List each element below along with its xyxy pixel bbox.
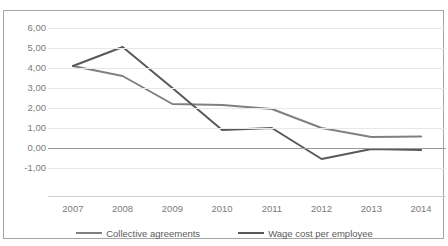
x-axis-tick-label: 2007 [62,203,83,214]
legend-label-wage-cost-per-employee: Wage cost per employee [268,228,373,239]
gridline [48,168,446,169]
gridline [48,128,446,129]
y-axis-tick-label: 0,00 [28,143,47,153]
series-line-collective-agreements [73,66,421,137]
x-axis-labels: 20072008200920102011201220132014 [48,203,446,219]
x-axis-tick-label: 2012 [311,203,332,214]
gridline [48,108,446,109]
y-axis-tick-label: 3,00 [28,83,47,93]
y-axis-tick-label: 4,00 [28,63,47,73]
x-axis-tick-label: 2013 [361,203,382,214]
y-axis-tick-label: 2,00 [28,103,47,113]
legend-item-collective-agreements[interactable]: Collective agreements [76,228,200,239]
y-axis-tick-label: 5,00 [28,43,47,53]
gridline [48,88,446,89]
y-axis-tick-label: 1,00 [28,123,47,133]
x-axis-tick-label: 2009 [162,203,183,214]
x-axis-tick-label: 2008 [112,203,133,214]
line-chart: 6,005,004,003,002,001,000,00-1,00 200720… [0,0,448,246]
legend-item-wage-cost-per-employee[interactable]: Wage cost per employee [238,228,373,239]
x-axis-tick-label: 2014 [411,203,432,214]
legend-label-collective-agreements: Collective agreements [106,228,200,239]
x-axis-line [48,196,446,197]
chart-plot-frame: 6,005,004,003,002,001,000,00-1,00 200720… [3,10,444,239]
y-axis-tick-label: 6,00 [28,23,47,33]
y-axis-tick-label: -1,00 [24,163,46,173]
plot-area [48,28,446,168]
x-axis-tick-label: 2010 [212,203,233,214]
series-lines [48,28,446,168]
legend-swatch-collective-agreements [76,232,102,235]
y-axis-labels: 6,005,004,003,002,001,000,00-1,00 [8,21,48,175]
legend-swatch-wage-cost-per-employee [238,232,264,235]
chart-legend: Collective agreementsWage cost per emplo… [4,223,445,243]
chart-title-cropped [0,0,448,9]
gridline [48,68,446,69]
x-axis-tick-label: 2011 [262,203,282,214]
gridline [48,48,446,49]
gridline [48,28,446,29]
zero-gridline [48,148,446,149]
series-line-wage-cost-per-employee [73,47,421,159]
